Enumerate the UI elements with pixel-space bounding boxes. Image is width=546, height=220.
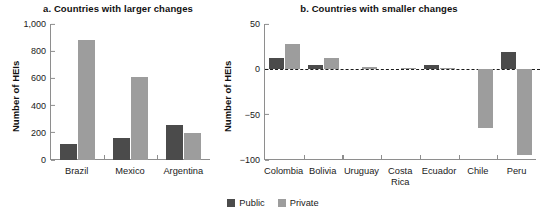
bar-public [113, 138, 130, 160]
panel-b-bar-groups [265, 24, 536, 159]
bar-public [60, 144, 77, 160]
legend-label: Private [290, 198, 319, 208]
bar-group [342, 24, 381, 159]
panel-a-bar-groups [51, 24, 210, 159]
bar-group [497, 24, 536, 159]
legend-item-public: Public [227, 198, 264, 208]
bar-private [440, 68, 455, 69]
figure-root: a. Countries with larger changes Number … [0, 0, 546, 220]
chart-panel-a: a. Countries with larger changes Number … [0, 0, 218, 196]
x-tick-mark [420, 155, 421, 159]
panel-a-y-axis-label: Number of HEIs [10, 61, 21, 132]
bar-pair [157, 24, 210, 159]
bar-public [424, 65, 439, 70]
bar-private [324, 58, 339, 69]
chart-legend: PublicPrivate [0, 198, 546, 208]
bar-group [157, 24, 210, 159]
bar-pair [265, 24, 304, 159]
y-tick-label: 0 [41, 156, 51, 165]
bar-group [420, 24, 459, 159]
legend-item-private: Private [278, 198, 319, 208]
bar-group [304, 24, 343, 159]
y-tick-label: 50 [250, 20, 265, 29]
bar-group [459, 24, 498, 159]
panel-b-plot-area: 500−50−100 [264, 24, 536, 160]
x-tick-mark [104, 155, 105, 159]
panel-a-title: a. Countries with larger changes [0, 3, 218, 14]
x-axis-label: Brazil [50, 166, 103, 177]
x-axis-label: Ecuador [420, 166, 459, 188]
y-tick-label: 200 [31, 128, 51, 137]
bar-group [104, 24, 157, 159]
y-tick-label: 1,000 [23, 20, 51, 29]
bar-private [131, 77, 148, 160]
bar-pair [420, 24, 459, 159]
chart-panel-b: b. Countries with smaller changes Number… [212, 0, 546, 196]
x-axis-label: Bolivia [303, 166, 342, 188]
bar-pair [381, 24, 420, 159]
bar-pair [304, 24, 343, 159]
bar-private [517, 69, 532, 155]
x-axis-label: Chile [458, 166, 497, 188]
bar-group [51, 24, 104, 159]
x-axis-label: Peru [497, 166, 536, 188]
bar-pair [459, 24, 498, 159]
panel-b-title: b. Countries with smaller changes [212, 3, 546, 14]
bar-private [401, 68, 416, 70]
bar-pair [497, 24, 536, 159]
y-tick-label: 0 [255, 65, 265, 74]
bar-public [308, 65, 323, 70]
panel-a-x-labels: BrazilMexicoArgentina [50, 166, 210, 177]
y-tick-label: −100 [240, 156, 265, 165]
x-tick-mark [304, 155, 305, 159]
bar-private [478, 69, 493, 128]
legend-swatch-icon [278, 199, 286, 207]
bar-pair [51, 24, 104, 159]
x-axis-label: Argentina [157, 166, 210, 177]
x-tick-mark [497, 155, 498, 159]
y-tick-label: 400 [31, 101, 51, 110]
bar-pair [342, 24, 381, 159]
bar-public [166, 125, 183, 160]
x-tick-mark [459, 155, 460, 159]
bar-private [362, 67, 377, 70]
bar-public [501, 52, 516, 69]
bar-group [265, 24, 304, 159]
x-tick-mark [381, 155, 382, 159]
bar-private [184, 133, 201, 160]
bar-group [381, 24, 420, 159]
panel-b-y-axis-label: Number of HEIs [222, 61, 233, 132]
x-tick-mark [157, 155, 158, 159]
y-tick-label: 800 [31, 47, 51, 56]
x-axis-label: Costa Rica [381, 166, 420, 188]
x-tick-mark [342, 155, 343, 159]
x-axis-label: Colombia [264, 166, 303, 188]
bar-private [78, 40, 95, 160]
bar-pair [104, 24, 157, 159]
x-axis-label: Uruguay [342, 166, 381, 188]
legend-label: Public [239, 198, 264, 208]
legend-swatch-icon [227, 199, 235, 207]
bar-private [285, 44, 300, 69]
panel-a-plot-area: 02004006008001,000 [50, 24, 210, 160]
bar-public [269, 58, 284, 70]
y-tick-label: −50 [245, 110, 265, 119]
x-axis-label: Mexico [103, 166, 156, 177]
panel-b-x-labels: ColombiaBoliviaUruguayCosta RicaEcuadorC… [264, 166, 536, 188]
y-tick-label: 600 [31, 74, 51, 83]
